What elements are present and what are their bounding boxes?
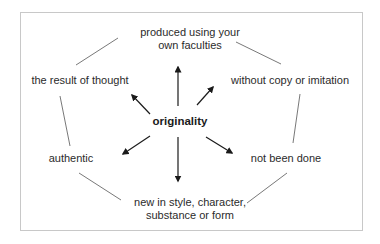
connector-thought-authentic bbox=[60, 96, 70, 146]
node-copy: without copy or imitation bbox=[231, 74, 349, 87]
node-thought-line-1: the result of thought bbox=[31, 74, 128, 87]
connector-faculties-copy bbox=[236, 42, 281, 64]
node-done-line-1: not been done bbox=[251, 152, 321, 165]
node-authentic-line-1: authentic bbox=[49, 152, 94, 165]
connector-authentic-new bbox=[79, 173, 121, 200]
node-faculties-line-2: own faculties bbox=[140, 39, 240, 52]
center-node-originality: originality bbox=[153, 115, 208, 128]
arrow-down-right bbox=[206, 137, 232, 153]
node-new-line-2: substance or form bbox=[134, 209, 246, 222]
arrow-down-left bbox=[123, 136, 150, 154]
connector-thought-faculties bbox=[76, 38, 118, 65]
node-done: not been done bbox=[251, 152, 321, 165]
node-faculties-line-1: produced using your bbox=[140, 26, 240, 39]
center-label: originality bbox=[153, 115, 208, 128]
arrow-up-left bbox=[132, 95, 150, 114]
node-authentic: authentic bbox=[49, 152, 94, 165]
node-new: new in style, character, substance or fo… bbox=[134, 196, 246, 222]
connector-copy-done bbox=[293, 94, 300, 143]
arrow-up-right bbox=[197, 87, 213, 105]
node-faculties: produced using your own faculties bbox=[140, 26, 240, 52]
node-copy-line-1: without copy or imitation bbox=[231, 74, 349, 87]
node-new-line-1: new in style, character, bbox=[134, 196, 246, 209]
node-thought: the result of thought bbox=[31, 74, 128, 87]
connector-done-new bbox=[247, 173, 287, 203]
